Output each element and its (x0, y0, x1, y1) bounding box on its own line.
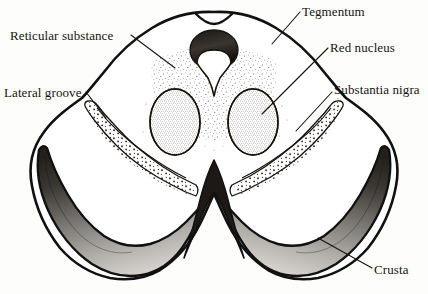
label-lateral-groove: Lateral groove (4, 85, 82, 101)
label-crusta: Crusta (374, 262, 409, 278)
label-reticular-substance: Reticular substance (10, 28, 113, 44)
label-substantia-nigra: Substantia nigra (334, 82, 420, 98)
label-red-nucleus: Red nucleus (330, 40, 395, 56)
label-tegmentum: Tegmentum (302, 4, 365, 20)
midbrain-cross-section-figure: Reticular substance Lateral groove Tegme… (0, 0, 428, 294)
